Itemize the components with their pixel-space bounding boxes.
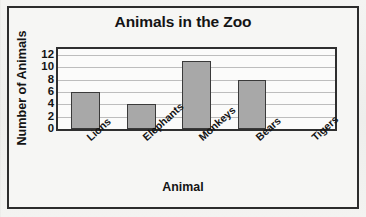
x-category-slot: Bears (225, 132, 281, 178)
x-axis-label: Animal (9, 180, 357, 194)
x-axis-category-labels: LionsElephantsMonkeysBearsTigers (56, 132, 337, 178)
y-axis-label: Number of Animals (15, 30, 32, 146)
x-category-slot: Monkeys (168, 132, 224, 178)
bar-series (58, 49, 335, 129)
x-category-slot: Tigers (281, 132, 337, 178)
y-axis-tick-8: 8 (48, 74, 54, 85)
y-axis-tick-10: 10 (41, 62, 54, 73)
plot-area (56, 47, 337, 131)
chart-frame: Animals in the Zoo Number of Animals 121… (7, 6, 359, 209)
y-axis-tick-12: 12 (41, 49, 54, 60)
y-axis-tick-0: 0 (48, 123, 54, 134)
y-axis-tick-4: 4 (48, 99, 54, 110)
chart-title: Animals in the Zoo (9, 13, 357, 31)
bar-monkeys (182, 61, 211, 129)
bar-bears (238, 80, 267, 129)
x-category-slot: Lions (56, 132, 112, 178)
y-axis-tick-labels: 121086420 (35, 47, 54, 131)
x-category-slot: Elephants (112, 132, 168, 178)
y-axis-tick-2: 2 (48, 111, 54, 122)
y-axis-tick-6: 6 (48, 86, 54, 97)
